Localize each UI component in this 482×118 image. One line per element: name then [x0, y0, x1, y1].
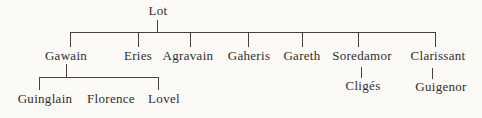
- node-lovel: Lovel: [148, 92, 180, 106]
- node-guinglain: Guinglain: [18, 92, 73, 106]
- connector-drop-eries: [138, 32, 139, 47]
- node-gaheris: Gaheris: [228, 49, 271, 63]
- connector-soredamor-stem: [361, 67, 362, 78]
- connector-gawain-children-bar: [39, 77, 159, 78]
- node-cliges: Cligés: [345, 79, 380, 93]
- node-gareth: Gareth: [283, 49, 320, 63]
- node-florence: Florence: [87, 92, 135, 106]
- node-gawain: Gawain: [45, 49, 87, 63]
- node-agravain: Agravain: [163, 49, 214, 63]
- connector-drop-gareth: [302, 32, 303, 47]
- family-tree-figure: Lot Gawain Eries Agravain Gaheris Gareth…: [0, 0, 482, 118]
- node-soredamor: Soredamor: [332, 49, 392, 63]
- connector-drop-gaheris: [248, 32, 249, 47]
- node-lot: Lot: [149, 4, 168, 18]
- connector-drop-clarissant: [435, 32, 436, 47]
- connector-gawain-stem: [66, 64, 67, 77]
- connector-drop-guinglain: [39, 77, 40, 90]
- connector-lot-stem: [157, 20, 158, 32]
- connector-drop-soredamor: [358, 32, 359, 47]
- connector-drop-gawain: [70, 32, 71, 47]
- connector-drop-lovel: [158, 77, 159, 90]
- connector-drop-agravain: [190, 32, 191, 47]
- connector-clarissant-stem: [432, 68, 433, 79]
- node-guigenor: Guigenor: [415, 80, 467, 94]
- node-eries: Eries: [124, 49, 152, 63]
- node-clarissant: Clarissant: [411, 49, 466, 63]
- connector-children-bar: [70, 32, 436, 33]
